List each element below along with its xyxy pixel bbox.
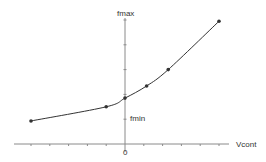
origin-label: 0 bbox=[123, 148, 128, 157]
data-point-marker bbox=[104, 105, 108, 109]
data-point-marker bbox=[217, 19, 221, 23]
data-point-marker bbox=[145, 84, 149, 88]
data-point-marker bbox=[29, 119, 33, 123]
axes bbox=[14, 18, 229, 152]
fmin-label: fmin bbox=[130, 114, 145, 123]
data-point-marker bbox=[123, 96, 127, 100]
vco-transfer-chart: fmax fmin Vcont 0 bbox=[0, 0, 266, 162]
fmax-label: fmax bbox=[117, 9, 134, 18]
data-point-marker bbox=[166, 68, 170, 72]
x-axis-label: Vcont bbox=[236, 140, 257, 149]
chart-svg: fmax fmin Vcont 0 bbox=[0, 0, 266, 162]
